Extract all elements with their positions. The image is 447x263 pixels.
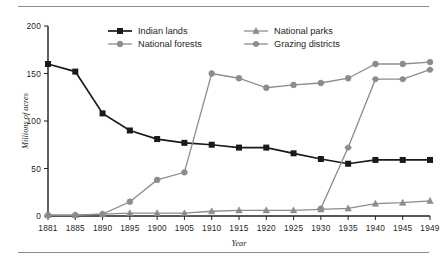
data-marker — [427, 157, 433, 163]
data-marker — [372, 157, 378, 163]
data-marker — [209, 71, 215, 77]
legend-item-national-forests[interactable]: National forests — [108, 39, 202, 49]
data-marker — [117, 28, 123, 34]
legend-label: National forests — [138, 39, 202, 49]
x-tick-label: 1930 — [311, 223, 330, 233]
data-marker — [345, 161, 351, 167]
x-tick-label: 1945 — [393, 223, 412, 233]
x-tick-label: 1890 — [93, 223, 112, 233]
data-marker — [345, 75, 351, 81]
series-grazing-districts — [317, 67, 433, 211]
data-marker — [182, 169, 188, 175]
y-tick-label: 0 — [36, 211, 41, 221]
data-marker — [291, 150, 297, 156]
data-marker — [318, 80, 324, 86]
series-line — [321, 70, 430, 209]
data-marker — [181, 140, 187, 146]
x-tick-label: 1895 — [120, 223, 139, 233]
data-marker — [291, 82, 297, 88]
legend-label: National parks — [274, 26, 333, 36]
data-marker — [127, 128, 133, 134]
data-marker — [100, 110, 106, 116]
data-marker — [154, 177, 160, 183]
x-tick-label: 1940 — [366, 223, 385, 233]
data-marker — [400, 61, 406, 67]
data-marker — [154, 136, 160, 142]
x-tick-label: 1915 — [229, 223, 248, 233]
data-marker — [263, 145, 269, 151]
x-axis-ticks: 1881188518901895190019051910191519201925… — [38, 216, 439, 233]
axes — [48, 26, 430, 216]
data-marker — [318, 156, 324, 162]
series-national-forests — [45, 59, 433, 218]
series-national-parks — [45, 197, 433, 217]
x-tick-label: 1949 — [420, 223, 439, 233]
legend-item-grazing-districts[interactable]: Grazing districts — [244, 39, 340, 49]
x-tick-label: 1925 — [284, 223, 303, 233]
x-tick-label: 1905 — [175, 223, 194, 233]
y-tick-label: 50 — [31, 164, 41, 174]
data-marker — [236, 145, 242, 151]
data-marker — [236, 75, 242, 81]
data-marker — [427, 59, 433, 65]
x-tick-label: 1900 — [148, 223, 167, 233]
chart-legend: Indian landsNational forestsNational par… — [108, 26, 340, 49]
x-tick-label: 1920 — [257, 223, 276, 233]
data-marker — [263, 85, 269, 91]
data-marker — [127, 199, 133, 205]
y-tick-label: 150 — [27, 69, 42, 79]
data-marker — [72, 69, 78, 75]
x-tick-label: 1885 — [66, 223, 85, 233]
data-marker — [400, 157, 406, 163]
legend-item-national-parks[interactable]: National parks — [244, 26, 333, 36]
y-tick-label: 200 — [27, 21, 42, 31]
x-tick-label: 1935 — [339, 223, 358, 233]
x-tick-label: 1881 — [38, 223, 57, 233]
data-marker — [209, 142, 215, 148]
line-chart-canvas: 0501001502001881188518901895190019051910… — [0, 0, 447, 263]
x-axis-title: Year — [232, 239, 248, 248]
chart-figure: 0501001502001881188518901895190019051910… — [0, 0, 447, 263]
legend-item-indian-lands[interactable]: Indian lands — [108, 26, 188, 36]
data-marker — [45, 61, 51, 67]
y-axis-title: Millions of acres — [21, 93, 30, 150]
data-marker — [373, 61, 379, 67]
legend-label: Grazing districts — [274, 39, 340, 49]
x-tick-label: 1910 — [202, 223, 221, 233]
data-marker — [117, 41, 123, 47]
legend-label: Indian lands — [138, 26, 188, 36]
